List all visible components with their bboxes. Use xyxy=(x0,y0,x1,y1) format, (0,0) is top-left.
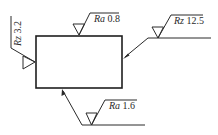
roughness-label-bottom: Ra 1.6 xyxy=(108,100,135,111)
roughness-diagram: Ra 0.8 Rz 12.5 Rz 3.2 Ra 1.6 xyxy=(0,0,218,135)
roughness-triangle-icon xyxy=(86,113,97,125)
roughness-symbol-right: Rz 12.5 xyxy=(123,15,211,59)
roughness-label-right: Rz 12.5 xyxy=(173,15,204,26)
roughness-symbol-left: Rz 3.2 xyxy=(11,16,35,69)
roughness-label-left: Rz 3.2 xyxy=(12,21,23,47)
roughness-triangle-icon xyxy=(152,27,164,38)
arrowhead-icon xyxy=(123,54,130,60)
roughness-triangle-icon xyxy=(73,24,85,35)
roughness-symbol-top: Ra 0.8 xyxy=(73,13,120,35)
part-outline xyxy=(36,36,122,88)
leader-line xyxy=(63,91,82,125)
roughness-label-top: Ra 0.8 xyxy=(93,13,120,24)
roughness-symbol-bottom: Ra 1.6 xyxy=(62,89,146,125)
